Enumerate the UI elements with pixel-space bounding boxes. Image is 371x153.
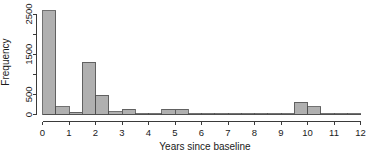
histogram-bar xyxy=(122,109,135,114)
histogram-bar xyxy=(82,62,95,114)
x-axis-tick-label: 11 xyxy=(329,127,339,138)
histogram-bar xyxy=(56,107,69,115)
histogram-plot: 050015002500 0123456789101112 Years sinc… xyxy=(0,0,371,153)
y-axis-title: Frequency xyxy=(0,38,11,85)
x-axis-tick-label: 0 xyxy=(40,127,45,138)
histogram-bar xyxy=(43,11,56,115)
x-axis-tick-label: 2 xyxy=(93,127,98,138)
y-axis-tick-label: 1500 xyxy=(23,44,34,65)
x-axis-tick-label: 3 xyxy=(119,127,124,138)
x-axis-tick-label: 12 xyxy=(355,127,366,138)
x-axis-tick-label: 1 xyxy=(66,127,71,138)
x-axis-tick-label: 9 xyxy=(278,127,283,138)
histogram-bar xyxy=(96,95,109,114)
x-axis-title: Years since baseline xyxy=(159,141,251,152)
y-axis-tick-label: 500 xyxy=(23,86,34,102)
x-axis-tick-label: 8 xyxy=(252,127,257,138)
x-axis-tick-label: 10 xyxy=(302,127,313,138)
y-axis-tick-label: 0 xyxy=(23,112,34,117)
histogram-bar xyxy=(294,102,307,114)
y-axis-tick-label: 2500 xyxy=(23,3,34,24)
x-axis-tick-label: 5 xyxy=(172,127,177,138)
x-axis-tick-label: 7 xyxy=(225,127,230,138)
x-axis-tick-label: 4 xyxy=(146,127,151,138)
x-axis-tick-label: 6 xyxy=(199,127,204,138)
histogram-bar xyxy=(175,109,188,114)
histogram-bar xyxy=(308,107,321,115)
histogram-bar xyxy=(162,109,175,114)
histogram-bar xyxy=(109,112,122,115)
histogram-svg: 050015002500 0123456789101112 Years sinc… xyxy=(0,0,371,153)
